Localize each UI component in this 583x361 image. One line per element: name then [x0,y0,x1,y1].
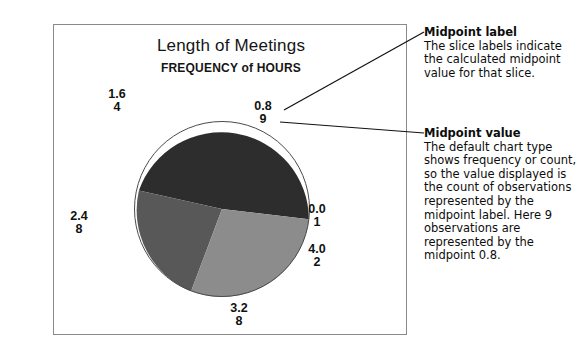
slice-label-1-6: 1.6 4 [100,88,134,114]
slice-label-0-8: 0.8 9 [246,100,280,126]
slice-label-3-2: 3.2 8 [222,302,256,328]
slice-frequency: 4 [100,101,134,114]
slice-frequency: 9 [246,113,280,126]
slice-label-2-4: 2.4 8 [62,210,96,236]
slice-label-0-0: 0.0 1 [300,203,334,229]
chart-subtitle: FREQUENCY of HOURS [54,61,408,75]
annotation-heading: Midpoint value [424,127,580,141]
screenshot-canvas: Length of Meetings FREQUENCY of HOURS 1.… [0,0,583,361]
slice-frequency: 2 [300,256,334,269]
chart-frame: Length of Meetings FREQUENCY of HOURS 1.… [53,24,407,335]
annotation-midpoint-label: Midpoint label The slice labels indicate… [424,26,574,80]
slice-label-4-0: 4.0 2 [300,243,334,269]
slice-frequency: 1 [300,216,334,229]
annotation-body: The slice labels indicate the calculated… [424,40,574,81]
pie-chart [132,119,312,299]
pie-svg [132,119,312,299]
annotation-body: The default chart type shows frequency o… [424,141,580,263]
slice-frequency: 8 [222,315,256,328]
annotation-heading: Midpoint label [424,26,574,40]
annotation-midpoint-value: Midpoint value The default chart type sh… [424,127,580,263]
chart-title: Length of Meetings [54,36,408,56]
slice-frequency: 8 [62,223,96,236]
